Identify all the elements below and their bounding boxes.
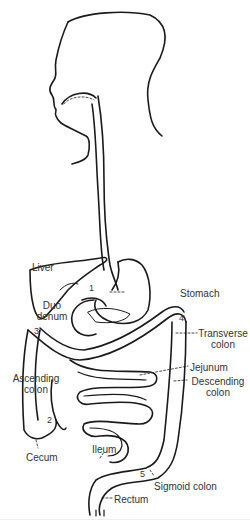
label-duodenum: Duo denum xyxy=(32,300,72,322)
label-jejunum: Jejunum xyxy=(190,362,228,373)
label-ascending-line2: colon xyxy=(10,384,62,395)
label-transverse-colon: Transverse colon xyxy=(196,328,250,350)
appendix xyxy=(56,420,66,430)
label-rectum: Rectum xyxy=(114,494,148,505)
label-descending-line2: colon xyxy=(188,387,248,398)
label-ileum: Ileum xyxy=(92,444,116,455)
label-descending-colon: Descending colon xyxy=(188,376,248,398)
head-outline xyxy=(68,12,165,136)
label-duodenum-line2: denum xyxy=(32,311,72,322)
label-liver: Liver xyxy=(32,262,54,273)
label-ascending-colon: Ascending colon xyxy=(10,373,62,395)
marker-2: 2 xyxy=(47,415,52,425)
label-cecum: Cecum xyxy=(26,452,58,463)
label-transverse-line1: Transverse xyxy=(196,328,250,339)
marker-5: 5 xyxy=(140,469,145,479)
label-duodenum-line1: Duo xyxy=(32,300,72,311)
label-descending-line1: Descending xyxy=(188,376,248,387)
bottom-divider xyxy=(0,519,250,520)
label-sigmoid-colon: Sigmoid colon xyxy=(154,481,217,492)
marker-4: 4 xyxy=(179,313,184,323)
label-stomach: Stomach xyxy=(180,288,219,299)
label-ascending-line1: Ascending xyxy=(10,373,62,384)
marker-1: 1 xyxy=(89,283,94,293)
marker-3: 3 xyxy=(34,326,39,336)
esophagus xyxy=(98,96,118,290)
label-transverse-line2: colon xyxy=(196,339,250,350)
